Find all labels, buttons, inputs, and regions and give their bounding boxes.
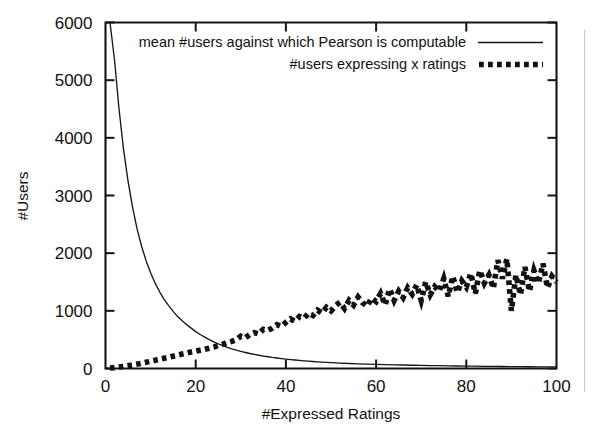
y-tick-label-6000: 6000 [55,14,93,33]
y-tick-label-3000: 3000 [55,187,93,206]
legend-label-mean-users-pearson: mean #users against which Pearson is com… [139,34,466,50]
y-tick-label-5000: 5000 [55,71,93,90]
legend-label-users-expressing-ratings: #users expressing x ratings [290,56,467,72]
y-tick-label-1000: 1000 [55,302,93,321]
x-tick-label-40: 40 [276,377,295,396]
x-tick-label-60: 60 [367,377,386,396]
x-tick-label-20: 20 [186,377,205,396]
x-axis-title: #Expressed Ratings [262,405,401,422]
y-axis-title: #Users [14,171,31,220]
x-tick-label-80: 80 [457,377,476,396]
x-tick-label-100: 100 [542,377,570,396]
y-tick-label-4000: 4000 [55,129,93,148]
x-tick-label-0: 0 [101,377,110,396]
y-tick-label-2000: 2000 [55,244,93,263]
y-tick-label-0: 0 [83,360,92,379]
chart-figure: 0100020003000400050006000 020406080100 #… [0,0,592,432]
